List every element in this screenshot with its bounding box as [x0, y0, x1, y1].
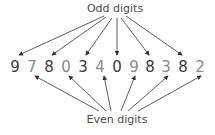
digit: 8 [44, 58, 54, 76]
odd-digits-label: Odd digits [87, 2, 143, 15]
digit: 4 [95, 58, 105, 76]
digit: 8 [178, 58, 188, 76]
digit: 9 [129, 58, 139, 76]
arrow-odd-1 [19, 16, 104, 55]
digit: 2 [195, 58, 205, 76]
digit: 9 [10, 58, 20, 76]
arrow-odd-5 [121, 18, 149, 55]
digit: 8 [145, 58, 155, 76]
digit: 3 [78, 58, 88, 76]
arrow-even-1 [35, 76, 99, 111]
even-digits-label: Even digits [87, 113, 148, 126]
digit: 7 [27, 58, 37, 76]
digit: 0 [61, 58, 71, 76]
digit: 0 [112, 58, 122, 76]
digit: 3 [161, 58, 171, 76]
arrow-odd-3 [86, 18, 112, 55]
arrow-even-4 [121, 76, 135, 111]
arrow-even-3 [104, 76, 111, 111]
isbn-digit-diagram: Odd digits Even digits 9 7 8 0 3 4 0 9 8… [0, 0, 215, 135]
arrow-even-2 [69, 76, 106, 111]
